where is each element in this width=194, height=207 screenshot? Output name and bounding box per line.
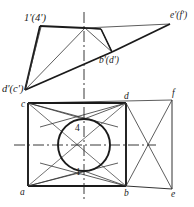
top-view-edge-b-e bbox=[126, 186, 172, 189]
top-view-diagonal-b-f bbox=[126, 100, 172, 186]
top-view-wedge-c-top bbox=[28, 103, 84, 119]
label-point-4: 4 bbox=[75, 124, 80, 134]
front-view-thin-dc-to-apex bbox=[25, 28, 85, 90]
top-view-wedge-b-bottom bbox=[84, 171, 126, 186]
label-e-f-prime: e'(f') bbox=[170, 11, 187, 21]
label-b-d-prime: b'(d') bbox=[99, 56, 119, 66]
top-view-wedge-d-top bbox=[84, 103, 126, 119]
front-view-thin-apex-to-bd bbox=[85, 28, 112, 52]
label-d-c-prime: d'(c') bbox=[2, 84, 23, 95]
label-a: a bbox=[20, 188, 25, 198]
label-f: f bbox=[172, 89, 175, 99]
top-view-group bbox=[28, 100, 172, 189]
label-1-4-prime: 1'(4') bbox=[24, 13, 46, 24]
technical-drawing-canvas: 1'(4') e'(f') b'(d') d'(c') c d f a b e … bbox=[0, 0, 194, 207]
front-view-edge-14-apex bbox=[40, 26, 85, 28]
label-d: d bbox=[124, 92, 129, 102]
front-view-edge-bd-notch bbox=[101, 29, 112, 52]
front-view-edge-notch-apex bbox=[85, 28, 101, 29]
top-view-diagonal-d-e bbox=[126, 103, 172, 189]
projection-drawing-svg bbox=[0, 0, 194, 207]
label-c: c bbox=[21, 100, 25, 110]
label-e: e bbox=[171, 190, 175, 200]
front-view-group bbox=[25, 24, 170, 90]
label-b: b bbox=[124, 189, 129, 199]
front-view-edge-bd-ef bbox=[112, 24, 170, 52]
front-view-top-edge bbox=[85, 24, 170, 28]
top-view-inner-b-to-left bbox=[40, 163, 126, 186]
front-view-thin-inner-left bbox=[25, 27, 41, 90]
label-point-1: 1 bbox=[76, 168, 81, 178]
top-view-inner-d-to-left bbox=[40, 103, 126, 127]
